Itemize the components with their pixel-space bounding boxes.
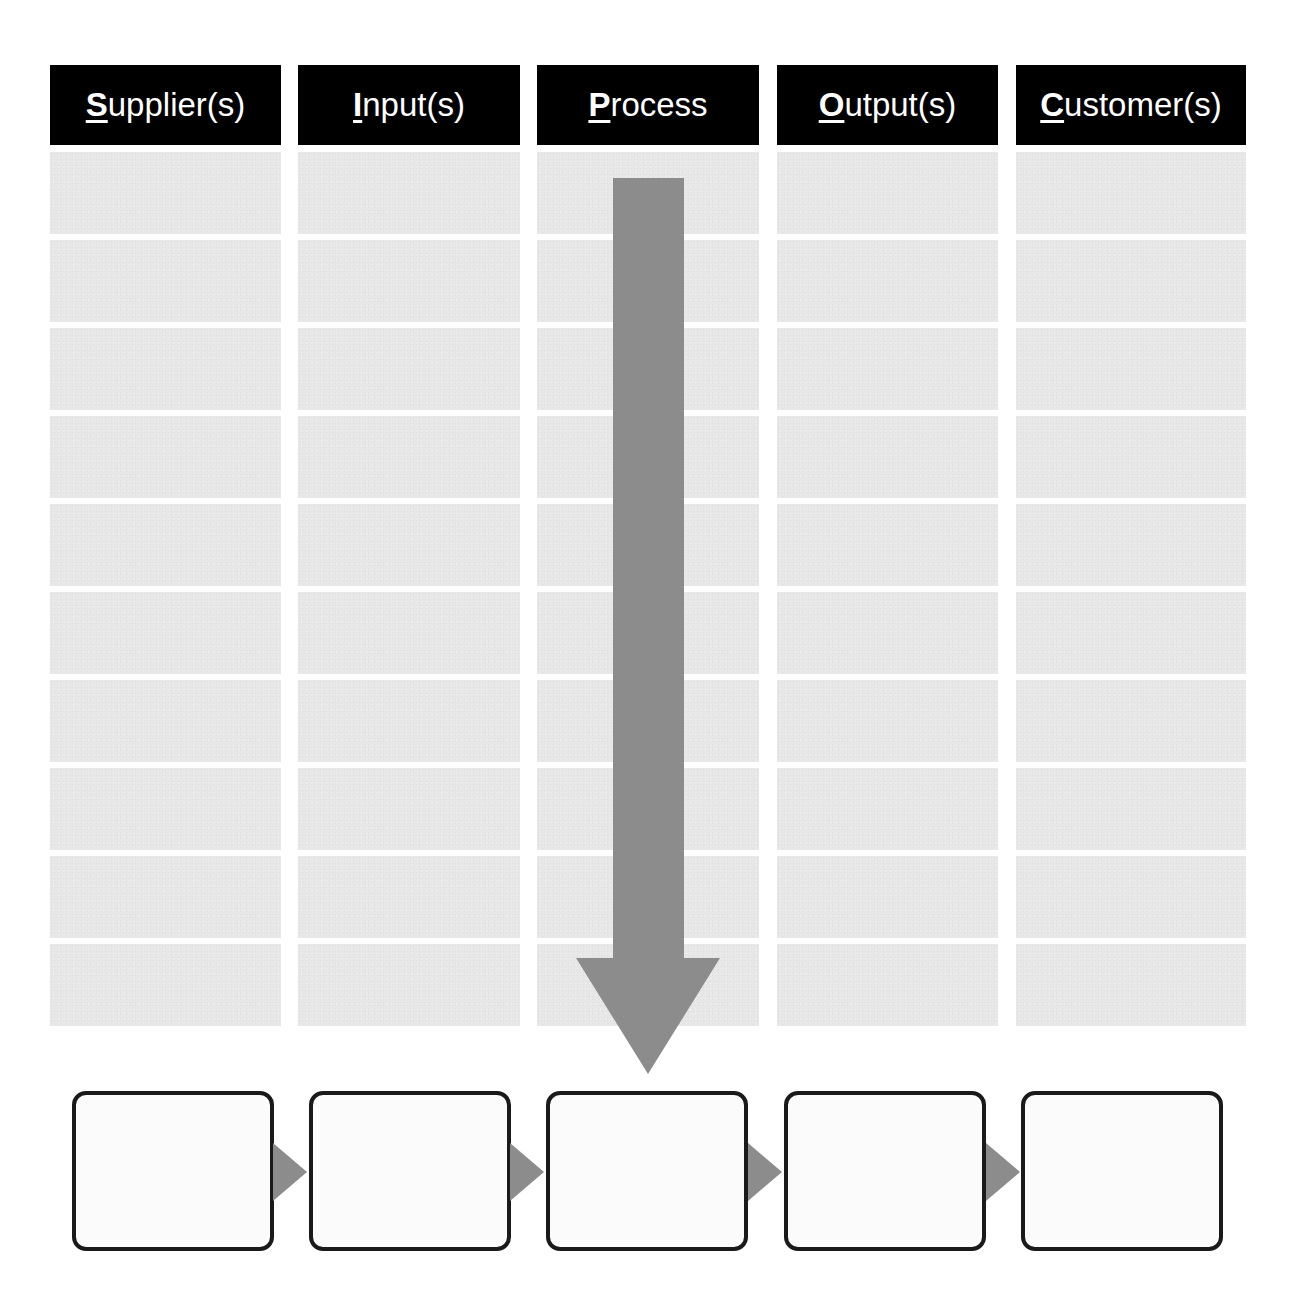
header-key-letter: O <box>819 86 845 124</box>
header-key-letter: I <box>353 86 362 124</box>
header-process: Process <box>537 65 759 145</box>
sipoc-cell[interactable] <box>1016 328 1246 410</box>
sipoc-cell[interactable] <box>777 768 998 850</box>
right-triangle-icon <box>510 1143 544 1201</box>
header-customers: Customer(s) <box>1016 65 1246 145</box>
column-suppliers: Supplier(s) <box>50 65 281 1032</box>
sipoc-cell[interactable] <box>777 416 998 498</box>
column-customers: Customer(s) <box>1016 65 1246 1032</box>
down-arrow-icon <box>576 178 720 1074</box>
sipoc-cell[interactable] <box>1016 768 1246 850</box>
sipoc-cell[interactable] <box>298 152 520 234</box>
sipoc-cell[interactable] <box>1016 152 1246 234</box>
sipoc-cell[interactable] <box>777 504 998 586</box>
right-triangle-icon <box>748 1143 782 1201</box>
header-label: rocess <box>610 86 707 124</box>
sipoc-cell[interactable] <box>298 240 520 322</box>
header-inputs: Input(s) <box>298 65 520 145</box>
sipoc-cell[interactable] <box>298 592 520 674</box>
sipoc-cell[interactable] <box>50 768 281 850</box>
process-step-box-2[interactable] <box>309 1091 511 1251</box>
sipoc-cell[interactable] <box>298 416 520 498</box>
sipoc-cell[interactable] <box>777 240 998 322</box>
header-label: utput(s) <box>844 86 956 124</box>
header-key-letter: P <box>588 86 610 124</box>
sipoc-cell[interactable] <box>1016 944 1246 1026</box>
header-suppliers: Supplier(s) <box>50 65 281 145</box>
sipoc-cell[interactable] <box>777 592 998 674</box>
sipoc-cell[interactable] <box>298 680 520 762</box>
sipoc-cell[interactable] <box>50 240 281 322</box>
sipoc-cell[interactable] <box>1016 504 1246 586</box>
sipoc-cell[interactable] <box>50 152 281 234</box>
header-label: ustomer(s) <box>1064 86 1222 124</box>
sipoc-cell[interactable] <box>298 856 520 938</box>
sipoc-cell[interactable] <box>50 504 281 586</box>
sipoc-cell[interactable] <box>777 328 998 410</box>
sipoc-cell[interactable] <box>1016 416 1246 498</box>
sipoc-cell[interactable] <box>50 856 281 938</box>
sipoc-cell[interactable] <box>1016 856 1246 938</box>
column-inputs: Input(s) <box>298 65 520 1032</box>
header-label: nput(s) <box>362 86 465 124</box>
sipoc-cell[interactable] <box>777 944 998 1026</box>
right-triangle-icon <box>273 1143 307 1201</box>
column-outputs: Output(s) <box>777 65 998 1032</box>
header-label: upplier(s) <box>108 86 246 124</box>
process-step-box-4[interactable] <box>784 1091 986 1251</box>
right-triangle-icon <box>986 1143 1020 1201</box>
sipoc-cell[interactable] <box>50 416 281 498</box>
header-key-letter: C <box>1040 86 1064 124</box>
sipoc-cell[interactable] <box>777 152 998 234</box>
sipoc-cell[interactable] <box>1016 680 1246 762</box>
header-key-letter: S <box>86 86 108 124</box>
sipoc-cell[interactable] <box>50 328 281 410</box>
sipoc-cell[interactable] <box>1016 592 1246 674</box>
sipoc-cell[interactable] <box>298 504 520 586</box>
sipoc-cell[interactable] <box>50 592 281 674</box>
sipoc-cell[interactable] <box>50 680 281 762</box>
header-outputs: Output(s) <box>777 65 998 145</box>
sipoc-cell[interactable] <box>777 680 998 762</box>
sipoc-cell[interactable] <box>298 328 520 410</box>
sipoc-cell[interactable] <box>1016 240 1246 322</box>
process-step-box-1[interactable] <box>72 1091 274 1251</box>
sipoc-cell[interactable] <box>777 856 998 938</box>
process-step-box-3[interactable] <box>546 1091 748 1251</box>
sipoc-cell[interactable] <box>50 944 281 1026</box>
sipoc-cell[interactable] <box>298 768 520 850</box>
sipoc-cell[interactable] <box>298 944 520 1026</box>
process-step-box-5[interactable] <box>1021 1091 1223 1251</box>
